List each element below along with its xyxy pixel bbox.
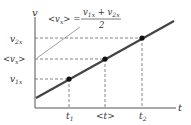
x-axis-label: t (178, 102, 183, 113)
velocity-time-diagram: v t v2x <vx> v1x t1 <t> t2 <vx> = (0, 0, 191, 125)
svg-text:<vx> =: <vx> = (48, 14, 80, 25)
average-velocity-equation: <vx> = v1x + v2x 2 (48, 7, 121, 30)
tick-avg-vx: <vx> (3, 54, 25, 65)
svg-text:2: 2 (98, 20, 104, 30)
point-t1 (66, 76, 71, 81)
tick-avg-t: <t> (96, 111, 115, 121)
tick-t2: t2 (139, 111, 147, 122)
y-axis-label: v (32, 7, 38, 18)
horizontal-guides (35, 38, 142, 79)
tick-v2x: v2x (10, 34, 23, 45)
point-avg-t (102, 56, 107, 61)
tick-t1: t1 (66, 111, 73, 122)
svg-text:v1x + v2x: v1x + v2x (83, 7, 120, 18)
tick-v1x: v1x (10, 74, 23, 85)
point-t2 (139, 35, 144, 40)
equation-pointer (37, 27, 80, 58)
